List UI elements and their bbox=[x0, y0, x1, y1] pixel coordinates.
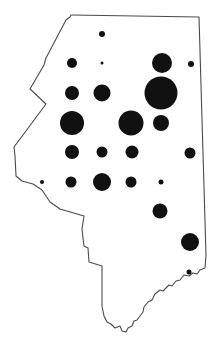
map-symbol bbox=[153, 115, 169, 131]
state-map bbox=[0, 0, 218, 344]
state-outline bbox=[14, 15, 206, 332]
map-symbol bbox=[93, 173, 111, 191]
map-symbol bbox=[40, 180, 44, 184]
map-symbol bbox=[188, 61, 194, 67]
map-symbol bbox=[152, 53, 172, 73]
map-symbol bbox=[65, 86, 79, 100]
map-symbol bbox=[97, 147, 108, 158]
map-symbol bbox=[94, 85, 111, 102]
map-symbol bbox=[67, 58, 77, 68]
map-symbol bbox=[60, 111, 84, 135]
map-symbol bbox=[153, 204, 168, 219]
map-symbol bbox=[99, 31, 105, 37]
map-symbol bbox=[126, 146, 139, 159]
map-symbol bbox=[181, 233, 199, 251]
map-symbol bbox=[66, 177, 77, 188]
map-symbol bbox=[101, 62, 104, 65]
map-symbol bbox=[126, 177, 137, 188]
map-symbol bbox=[187, 270, 192, 275]
map-symbol bbox=[185, 148, 196, 159]
map-symbol bbox=[65, 145, 79, 159]
map-symbol bbox=[159, 180, 164, 185]
map-symbol bbox=[145, 77, 178, 110]
map-symbol bbox=[119, 111, 144, 136]
